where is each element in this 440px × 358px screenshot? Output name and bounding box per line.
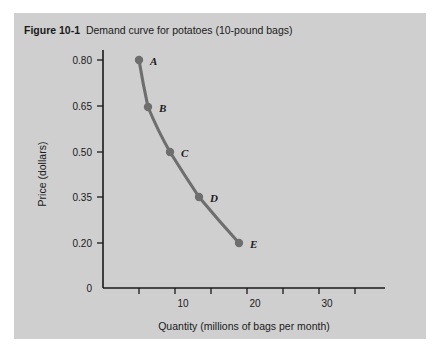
x-tick-label: 20 <box>249 298 261 309</box>
data-point-c <box>166 148 174 156</box>
y-tick-label: 0.35 <box>73 192 93 203</box>
y-tick-label: 0.65 <box>73 101 93 112</box>
x-axis-title: Quantity (millions of bags per month) <box>158 320 330 332</box>
point-label-a: A <box>149 55 157 67</box>
x-tick-label: 30 <box>321 298 333 309</box>
y-axis-title: Price (dollars) <box>36 142 48 207</box>
y-axis-ticks <box>97 60 103 243</box>
point-label-b: B <box>158 102 166 114</box>
data-point-b <box>144 103 152 111</box>
x-axis-ticks <box>139 288 355 294</box>
y-tick-label: 0.50 <box>73 147 93 158</box>
data-point-a <box>135 56 143 64</box>
data-point-labels: A B C D E <box>149 55 257 250</box>
demand-curve-line <box>139 60 239 243</box>
y-axis-origin-label: 0 <box>86 283 92 294</box>
x-axis-tick-labels: 10 20 30 <box>177 298 333 309</box>
point-label-d: D <box>209 192 218 204</box>
point-label-c: C <box>181 147 189 159</box>
y-tick-label: 0.80 <box>73 55 93 66</box>
demand-curve-plot: 0.80 0.65 0.50 0.35 0.20 0 10 20 <box>0 0 440 358</box>
data-points <box>135 56 243 247</box>
figure-root: Figure 10-1 Demand curve for potatoes (1… <box>0 0 440 358</box>
data-point-d <box>195 193 203 201</box>
chart-svg: 0.80 0.65 0.50 0.35 0.20 0 10 20 <box>0 0 440 358</box>
y-axis-tick-labels: 0.80 0.65 0.50 0.35 0.20 0 <box>73 55 93 294</box>
y-tick-label: 0.20 <box>73 238 93 249</box>
x-tick-label: 10 <box>177 298 189 309</box>
data-point-e <box>235 239 243 247</box>
point-label-e: E <box>249 238 257 250</box>
